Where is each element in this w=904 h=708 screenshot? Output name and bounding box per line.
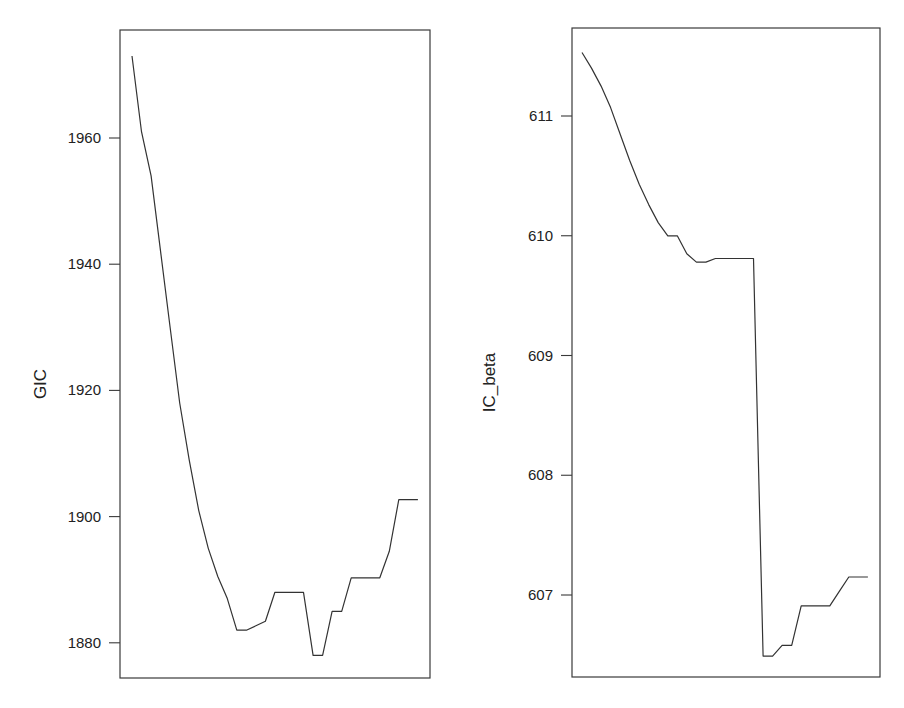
ic-beta-plot-frame (572, 28, 880, 677)
y-tick-label: 608 (528, 466, 553, 483)
gic-y-axis-label: GIC (31, 369, 50, 399)
y-tick-label: 1940 (68, 255, 101, 272)
y-tick-label: 1880 (68, 634, 101, 651)
ic-beta-y-axis: 607608609610611 (528, 107, 572, 603)
gic-y-axis: 18801900192019401960 (68, 129, 120, 651)
y-tick-label: 611 (529, 107, 553, 124)
y-tick-label: 610 (528, 227, 553, 244)
ic-beta-panel: 607608609610611 IC_beta (480, 28, 880, 677)
y-tick-label: 1920 (68, 381, 101, 398)
y-tick-label: 1900 (68, 508, 101, 525)
gic-panel: 18801900192019401960 GIC (31, 30, 430, 678)
ic-beta-y-axis-label: IC_beta (480, 352, 499, 412)
y-tick-label: 607 (528, 586, 553, 603)
y-tick-label: 1960 (68, 129, 101, 146)
gic-series-line (132, 56, 418, 655)
ic-beta-series-line (582, 53, 868, 657)
chart-canvas: 18801900192019401960 GIC 607608609610611… (0, 0, 904, 708)
y-tick-label: 609 (528, 347, 553, 364)
gic-plot-frame (120, 30, 430, 678)
